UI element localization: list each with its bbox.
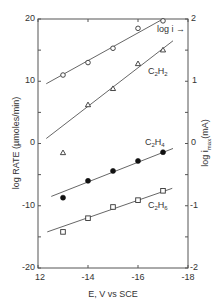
data-point-c2h6 bbox=[111, 205, 116, 210]
series-label-c2h6: C2H6 bbox=[148, 200, 168, 211]
series-label-c2h2: C2H2 bbox=[148, 66, 168, 77]
y-tick-label-right: -2 bbox=[190, 263, 198, 272]
series-label-c2h4: C2H4 bbox=[145, 137, 165, 148]
x-tick-label: 12 bbox=[28, 273, 52, 282]
data-point-c2h2 bbox=[60, 150, 65, 155]
c2h6-sub2: 6 bbox=[164, 205, 167, 211]
fit-line-c2h2 bbox=[46, 41, 173, 139]
data-point-log-i bbox=[136, 26, 141, 31]
y-tick-label-left: -20 bbox=[11, 263, 35, 272]
c2h2-sub2: 2 bbox=[164, 71, 167, 77]
y-tick-label-left: 10 bbox=[11, 76, 35, 85]
data-point-log-i bbox=[61, 73, 66, 78]
y-tick-label-right: 1 bbox=[192, 76, 197, 85]
y-axis-title-right-prefix: log i bbox=[200, 150, 210, 167]
y-tick-label-right: -1 bbox=[190, 201, 198, 210]
data-point-c2h4 bbox=[61, 195, 66, 200]
data-point-c2h6 bbox=[161, 189, 166, 194]
y-tick-label-right: 2 bbox=[191, 14, 196, 23]
data-point-c2h4 bbox=[111, 168, 116, 173]
data-point-c2h4 bbox=[86, 178, 91, 183]
data-point-c2h6 bbox=[86, 216, 91, 221]
series-label-log-i: log i → bbox=[157, 24, 185, 34]
y-axis-title-right-suffix: (mA) bbox=[200, 119, 210, 139]
x-tick-label: -14 bbox=[76, 273, 100, 282]
y-axis-title-right-sub: max bbox=[206, 139, 212, 150]
y-tick-label-left: 20 bbox=[11, 14, 35, 23]
y-tick-label-right: 0 bbox=[191, 138, 196, 147]
data-point-log-i bbox=[161, 19, 166, 24]
x-tick-label: -16 bbox=[126, 273, 150, 282]
data-point-c2h4 bbox=[161, 150, 166, 155]
x-tick-label: -18 bbox=[176, 273, 200, 282]
data-point-c2h2 bbox=[135, 61, 140, 66]
x-axis-title: E, V vs SCE bbox=[88, 289, 138, 299]
data-point-log-i bbox=[111, 46, 116, 51]
chart: 20 10 0 -10 -20 2 1 0 -1 -2 12 -14 -16 -… bbox=[0, 0, 222, 306]
y-tick-label-left: -10 bbox=[11, 201, 35, 210]
data-point-log-i bbox=[86, 60, 91, 65]
data-point-c2h4 bbox=[136, 158, 141, 163]
y-axis-title-right: log imax(mA) bbox=[200, 119, 212, 166]
data-point-c2h6 bbox=[136, 198, 141, 203]
c2h4-sub2: 4 bbox=[161, 142, 164, 148]
data-point-c2h6 bbox=[61, 230, 66, 235]
y-axis-title-left: log RATE (µmoles/min) bbox=[11, 97, 21, 190]
plot-area bbox=[0, 0, 222, 306]
